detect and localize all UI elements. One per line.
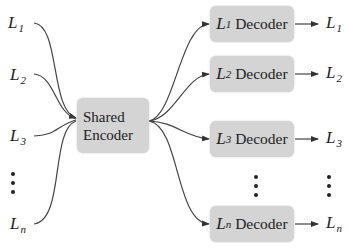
- input-label-n: Ln: [10, 215, 26, 235]
- decoder-box-2: L2 Decoder: [210, 56, 294, 92]
- input-ellipsis: [11, 172, 15, 199]
- decoder-box-3: L3 Decoder: [210, 121, 294, 157]
- encoder-label-line1: Shared: [77, 108, 125, 126]
- input-label-3: L3: [10, 127, 26, 147]
- decoder-ellipsis: [254, 175, 258, 202]
- decoder-box-1: L1 Decoder: [210, 6, 294, 42]
- shared-encoder-box: Shared Encoder: [77, 98, 149, 153]
- decoder-box-n: Ln Decoder: [210, 206, 294, 242]
- wire-input-1: [34, 23, 76, 118]
- output-label-n: Ln: [326, 214, 342, 234]
- output-label-1: L1: [326, 14, 342, 34]
- output-label-2: L2: [326, 64, 342, 84]
- output-label-3: L3: [326, 129, 342, 149]
- output-ellipsis: [327, 175, 331, 202]
- encoder-label-line2: Encoder: [77, 126, 133, 144]
- input-label-1: L1: [8, 14, 24, 34]
- connection-wires: [0, 0, 348, 250]
- input-label-2: L2: [10, 66, 26, 86]
